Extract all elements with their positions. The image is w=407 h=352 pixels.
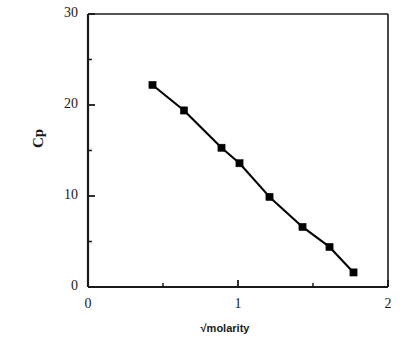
chart-figure: Cp √molarity 3020100 012 [0,0,407,352]
x-axis-title: √molarity [130,322,320,334]
data-point-marker [350,269,357,276]
data-point-marker [326,243,333,250]
data-point-marker [236,160,243,167]
y-tick-label: 0 [50,278,78,294]
data-point-marker [266,193,273,200]
y-tick-label: 10 [50,187,78,203]
x-tick-label: 2 [376,296,400,312]
data-point-marker [149,81,156,88]
data-point-marker [180,107,187,114]
plot-frame [88,14,388,287]
chart-plot-area [0,0,407,352]
y-tick-label: 20 [50,96,78,112]
x-tick-label: 0 [76,296,100,312]
y-axis-title: Cp [30,109,47,169]
x-tick-label: 1 [226,296,250,312]
data-point-marker [218,144,225,151]
y-tick-label: 30 [50,5,78,21]
data-point-marker [299,223,306,230]
axis-ticks [88,14,388,287]
